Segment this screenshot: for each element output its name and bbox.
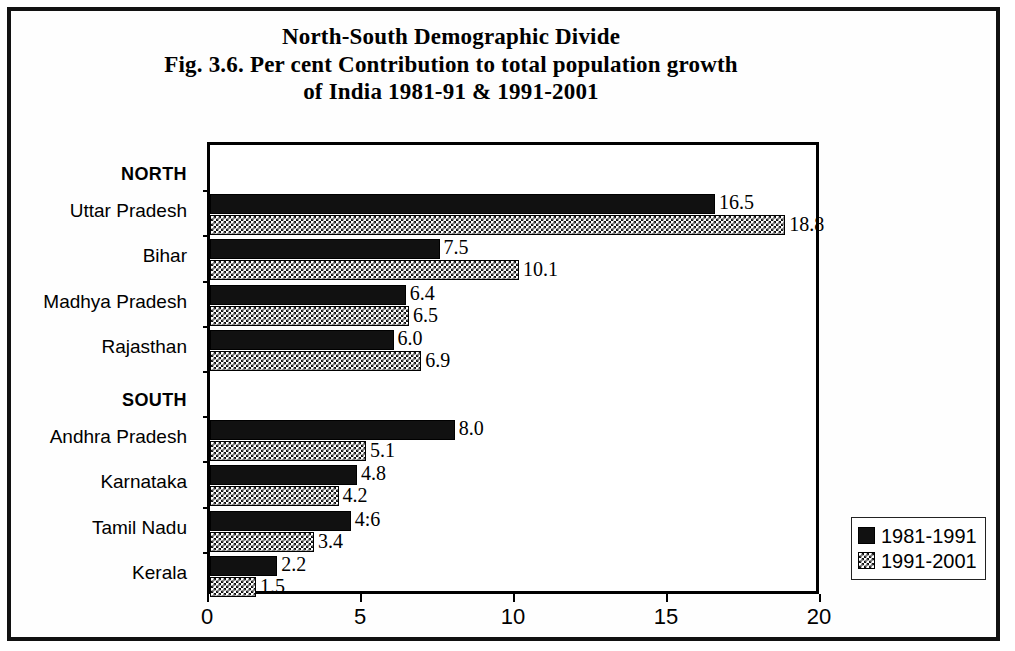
chart-legend: 1981-1991 1991-2001 [851, 517, 986, 580]
bar-value-label: 4:6 [355, 509, 381, 529]
bar-1991-2001-bihar [210, 260, 519, 280]
x-axis-tick [819, 594, 821, 602]
bar-value-label: 8.0 [459, 418, 484, 438]
x-axis-tick-label: 15 [654, 604, 678, 630]
bar-value-label: 6.5 [413, 305, 438, 325]
bar-value-label: 10.1 [523, 259, 558, 279]
checkerboard-swatch-icon [858, 552, 875, 569]
solid-black-swatch-icon [858, 527, 875, 544]
bar-1981-1991-karnataka [210, 465, 357, 485]
legend-label-1981-1991: 1981-1991 [881, 526, 977, 546]
y-axis-tick [203, 371, 210, 373]
bar-1981-1991-kerala [210, 556, 277, 576]
title-line-2: Fig. 3.6. Per cent Contribution to total… [11, 51, 891, 79]
bar-value-label: 4.2 [343, 485, 368, 505]
bar-1991-2001-andhra-pradesh [210, 441, 366, 461]
x-axis-tick-label: 10 [501, 604, 525, 630]
x-axis-ticks [207, 594, 819, 604]
bar-1981-1991-tamil-nadu [210, 511, 351, 531]
bar-value-label: 6.0 [398, 328, 423, 348]
bar-1991-2001-uttar-pradesh [210, 215, 785, 235]
chart-bar-row: 4.84.2 [210, 461, 816, 511]
bar-value-label: 6.9 [425, 350, 450, 370]
legend-item-1991-2001: 1991-2001 [858, 548, 977, 573]
chart-bar-row: 7.510.1 [210, 235, 816, 285]
bar-1991-2001-rajasthan [210, 351, 421, 371]
figure-title-block: North-South Demographic Divide Fig. 3.6.… [11, 23, 891, 106]
bar-1981-1991-andhra-pradesh [210, 420, 455, 440]
bar-1991-2001-madhya-pradesh [210, 306, 409, 326]
y-axis-category-label: Uttar Pradesh [0, 201, 187, 221]
y-axis-category-label: Tamil Nadu [0, 518, 187, 538]
x-axis-tick-labels: 05101520 [11, 604, 1015, 638]
y-axis-tick [203, 235, 210, 237]
bar-value-label: 16.5 [719, 192, 754, 212]
chart-group-spacer-row [210, 145, 816, 195]
chart-bar-row: 6.06.9 [210, 326, 816, 376]
x-axis-tick [360, 594, 362, 602]
y-axis-tick [203, 461, 210, 463]
plot-area: 16.518.87.510.16.46.56.06.98.05.14.84.24… [207, 142, 819, 594]
y-axis-tick [203, 281, 210, 283]
bar-value-label: 7.5 [444, 237, 469, 257]
legend-label-1991-2001: 1991-2001 [881, 551, 977, 571]
y-axis-category-label: Andhra Pradesh [0, 427, 187, 447]
y-axis-category-labels: NORTHUttar PradeshBiharMadhya PradeshRaj… [11, 142, 201, 594]
y-axis-tick [203, 416, 210, 418]
figure-frame: North-South Demographic Divide Fig. 3.6.… [7, 7, 1000, 641]
chart-bar-row: 16.518.8 [210, 190, 816, 240]
bar-value-label: 3.4 [318, 531, 343, 551]
bar-1981-1991-bihar [210, 239, 440, 259]
y-axis-tick [203, 552, 210, 554]
y-axis-category-label: Madhya Pradesh [0, 292, 187, 312]
x-axis-tick-label: 5 [354, 604, 366, 630]
chart-group-spacer-row [210, 371, 816, 421]
bar-value-label: 18.8 [789, 214, 824, 234]
y-axis-category-label: Bihar [0, 246, 187, 266]
y-axis-category-label: Rajasthan [0, 337, 187, 357]
bar-1981-1991-rajasthan [210, 330, 394, 350]
x-axis-tick [666, 594, 668, 602]
bar-value-label: 5.1 [370, 440, 395, 460]
y-axis-tick [203, 326, 210, 328]
chart-bar-row: 8.05.1 [210, 416, 816, 466]
bar-1991-2001-karnataka [210, 486, 339, 506]
title-line-1: North-South Demographic Divide [11, 23, 891, 51]
bar-value-label: 2.2 [281, 554, 306, 574]
x-axis-tick-label: 20 [807, 604, 831, 630]
y-axis-tick [203, 190, 210, 192]
bar-value-label: 6.4 [410, 283, 435, 303]
bar-1981-1991-madhya-pradesh [210, 285, 406, 305]
x-axis-tick [513, 594, 515, 602]
y-axis-group-header: SOUTH [0, 390, 187, 410]
y-axis-category-label: Karnataka [0, 472, 187, 492]
bar-value-label: 4.8 [361, 463, 386, 483]
x-axis-tick-label: 0 [201, 604, 213, 630]
y-axis-category-label: Kerala [0, 563, 187, 583]
title-line-3: of India 1981-91 & 1991-2001 [11, 78, 891, 106]
y-axis-group-header: NORTH [0, 164, 187, 184]
chart-bar-row: 6.46.5 [210, 281, 816, 331]
legend-item-1981-1991: 1981-1991 [858, 523, 977, 548]
y-axis-tick [203, 507, 210, 509]
bar-1991-2001-tamil-nadu [210, 532, 314, 552]
x-axis-tick [207, 594, 209, 602]
chart-bar-row: 4:63.4 [210, 507, 816, 557]
bar-value-label: 1.5 [260, 576, 285, 596]
bar-1981-1991-uttar-pradesh [210, 194, 715, 214]
